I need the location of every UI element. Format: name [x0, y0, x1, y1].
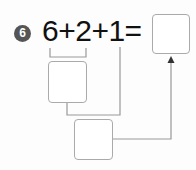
arrow-up-icon — [168, 56, 175, 63]
connector-lines — [0, 0, 196, 170]
